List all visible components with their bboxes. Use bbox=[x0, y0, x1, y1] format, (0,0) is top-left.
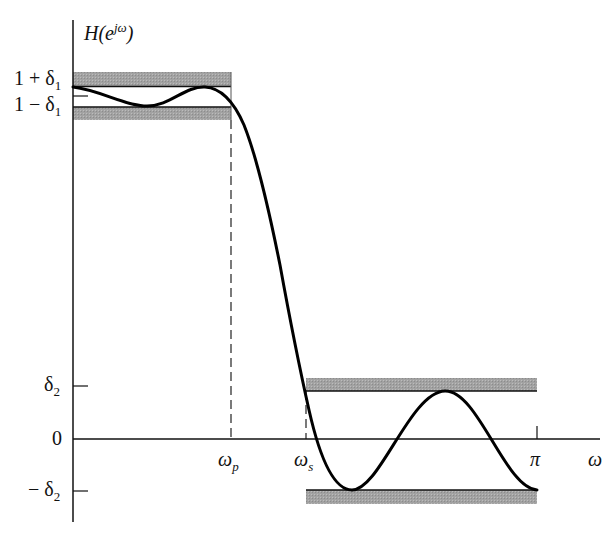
xtick-omega-s: ωs bbox=[294, 448, 313, 474]
ytick-neg-delta2: − δ2 bbox=[28, 478, 60, 504]
y-axis-label: H(ejω) bbox=[83, 20, 134, 45]
passband-lower-band bbox=[73, 107, 231, 120]
ytick-1-minus-delta1: 1 − δ1 bbox=[14, 93, 61, 119]
passband-upper-band bbox=[73, 72, 231, 87]
stopband-upper-band bbox=[306, 378, 537, 391]
ytick-zero: 0 bbox=[52, 427, 62, 449]
x-axis-label: ω bbox=[588, 448, 602, 470]
filter-spec-diagram: H(ejω) 1 + δ1 1 − δ1 δ2 0 − δ2 ωp ωs π ω bbox=[0, 0, 616, 535]
ytick-1-plus-delta1: 1 + δ1 bbox=[14, 67, 61, 93]
xtick-omega-p: ωp bbox=[218, 448, 239, 474]
stopband-lower-band bbox=[306, 490, 537, 504]
frequency-response-curve bbox=[73, 87, 537, 490]
ytick-delta2: δ2 bbox=[44, 373, 60, 399]
xtick-pi: π bbox=[530, 448, 541, 470]
